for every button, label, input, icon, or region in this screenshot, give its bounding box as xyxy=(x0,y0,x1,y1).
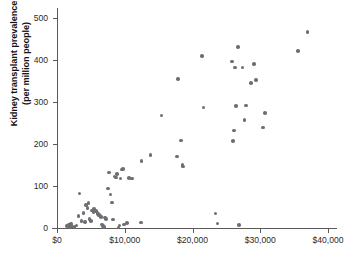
x-axis-tick-label: $40,000 xyxy=(301,236,355,245)
x-axis-tick xyxy=(328,229,329,233)
y-axis-tick xyxy=(53,18,57,19)
data-point xyxy=(114,176,118,180)
data-point xyxy=(118,224,122,228)
y-axis-tick xyxy=(53,102,57,103)
data-point xyxy=(121,167,125,171)
data-point xyxy=(181,165,185,169)
data-point xyxy=(176,77,180,81)
data-point xyxy=(99,215,103,219)
data-point xyxy=(306,30,310,34)
data-point xyxy=(111,218,115,222)
data-point xyxy=(214,212,218,216)
y-axis-tick-label: 500 xyxy=(22,14,48,23)
data-point xyxy=(296,49,300,53)
x-axis-tick-label: $10,000 xyxy=(98,236,152,245)
data-point xyxy=(234,104,238,108)
data-point xyxy=(237,223,241,227)
data-point xyxy=(102,225,106,229)
data-point xyxy=(261,126,265,130)
data-point xyxy=(139,221,143,225)
y-axis-tick-label: 200 xyxy=(22,140,48,149)
data-point xyxy=(109,193,113,197)
data-point xyxy=(77,214,81,218)
x-axis-tick-label: $20,000 xyxy=(166,236,220,245)
data-point xyxy=(200,54,204,58)
data-point xyxy=(202,106,206,110)
data-point xyxy=(231,139,235,143)
data-point xyxy=(230,60,234,64)
data-point xyxy=(87,201,91,205)
data-point xyxy=(252,62,256,66)
data-point xyxy=(110,201,114,205)
data-point xyxy=(107,171,111,175)
data-point xyxy=(175,155,179,159)
y-axis-tick xyxy=(53,144,57,145)
x-axis-tick xyxy=(260,229,261,233)
x-axis-tick xyxy=(193,229,194,233)
scatter-chart: Kidney transplant prevalence (per millio… xyxy=(0,0,355,263)
data-point xyxy=(179,139,183,143)
x-axis-line xyxy=(52,228,337,229)
data-point xyxy=(241,66,245,70)
data-point xyxy=(263,111,267,115)
y-axis-tick xyxy=(53,186,57,187)
data-point xyxy=(83,220,87,224)
data-point xyxy=(75,224,79,228)
y-axis-tick-label: 400 xyxy=(22,56,48,65)
data-point xyxy=(249,81,253,85)
data-point xyxy=(233,66,237,70)
data-point xyxy=(104,217,108,221)
data-point xyxy=(115,172,119,176)
data-point xyxy=(149,153,153,157)
data-point xyxy=(216,222,220,226)
x-axis-tick-label: $30,000 xyxy=(233,236,287,245)
data-point xyxy=(236,45,240,49)
y-axis-tick-label: 100 xyxy=(22,182,48,191)
data-point xyxy=(119,177,123,181)
data-point xyxy=(125,221,129,225)
plot-area: 0100200300400500$0$10,000$20,000$30,000$… xyxy=(0,0,355,263)
data-point xyxy=(254,78,258,82)
y-axis-line xyxy=(57,8,58,229)
data-point xyxy=(160,114,164,118)
data-point xyxy=(130,177,134,181)
data-point xyxy=(244,104,248,108)
data-point xyxy=(232,129,236,133)
data-point xyxy=(86,206,90,210)
data-point xyxy=(243,118,247,122)
data-point xyxy=(140,159,144,163)
data-point xyxy=(82,211,86,215)
y-axis-tick-label: 300 xyxy=(22,98,48,107)
x-axis-tick xyxy=(57,229,58,233)
data-point xyxy=(78,192,82,196)
y-axis-tick xyxy=(53,60,57,61)
x-axis-tick-label: $0 xyxy=(30,236,84,245)
y-axis-tick-label: 0 xyxy=(22,224,48,233)
x-axis-tick xyxy=(125,229,126,233)
data-point xyxy=(106,187,110,191)
data-point xyxy=(89,219,93,223)
